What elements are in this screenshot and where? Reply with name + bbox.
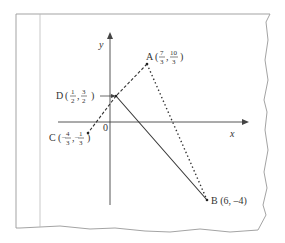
svg-text:C: C [49,132,56,143]
svg-text:A: A [146,51,154,62]
svg-text:2: 2 [71,97,75,105]
x-axis-label: x [229,128,235,139]
svg-text:3: 3 [82,88,86,96]
svg-text:): ) [91,90,94,102]
svg-text:): ) [87,132,90,144]
point-a [146,63,149,66]
svg-text:7: 7 [160,49,164,57]
svg-text:3: 3 [172,58,176,66]
svg-text:1: 1 [79,130,83,138]
origin-label: 0 [103,122,108,133]
svg-text:3: 3 [160,58,164,66]
svg-text:2: 2 [82,97,86,105]
svg-text:3: 3 [79,139,83,147]
svg-text:1: 1 [71,88,75,96]
label-b: B (6, –4) [211,195,247,207]
point-d [115,95,118,98]
svg-text:10: 10 [170,49,178,57]
svg-text:4: 4 [66,130,70,138]
svg-text:3: 3 [66,139,70,147]
svg-text:D: D [56,90,63,101]
point-b [206,199,209,202]
svg-text:): ) [180,51,183,63]
svg-text:,: , [77,90,80,101]
svg-text:,: , [166,51,169,62]
y-axis-label: y [98,39,104,50]
coordinate-diagram: y x 0 A ( 7 3 , 10 3 ) D ( 1 2 , 3 2 ) C… [0,0,285,243]
